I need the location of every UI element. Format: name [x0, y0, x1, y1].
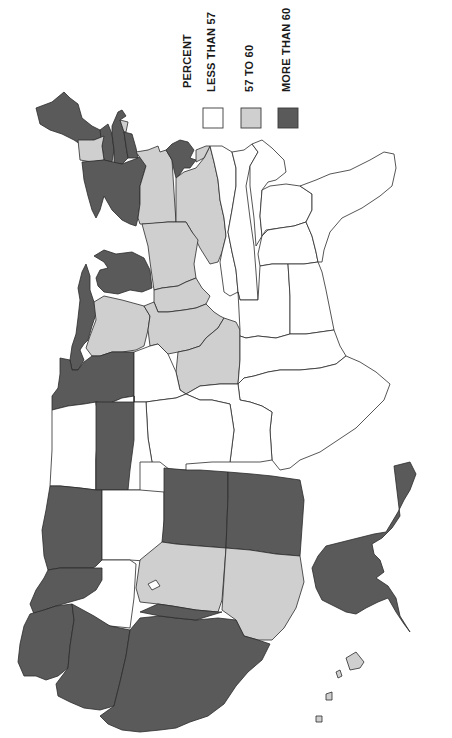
hawaii-oahu [326, 692, 332, 700]
legend: PERCENT LESS THAN 57 57 TO 60 MORE THAN … [181, 8, 298, 128]
region-west [18, 468, 304, 732]
state-hawaii [316, 652, 364, 722]
state-florida [300, 152, 396, 262]
state-oregon [18, 604, 74, 680]
legend-label-57-to-60: 57 TO 60 [243, 45, 255, 92]
region-new-england [36, 92, 138, 164]
state-maine [36, 92, 104, 144]
hawaii-maui [336, 670, 342, 678]
state-utah [136, 542, 226, 612]
state-south-dakota [50, 402, 98, 490]
state-alaska [312, 462, 416, 632]
state-montana [42, 486, 102, 570]
legend-swatch-less-than-57 [203, 108, 223, 128]
state-vermont [78, 136, 104, 162]
legend-label-less-than-57: LESS THAN 57 [205, 12, 217, 92]
state-alabama [288, 262, 334, 334]
state-oklahoma [146, 394, 234, 470]
legend-swatch-57-to-60 [241, 108, 261, 128]
legend-swatch-more-than-60 [278, 108, 298, 128]
legend-title: PERCENT [181, 34, 193, 88]
state-kansas [226, 472, 304, 556]
state-north-dakota [96, 396, 134, 490]
state-illinois [86, 296, 150, 356]
legend-label-more-than-60: MORE THAN 60 [280, 8, 292, 92]
state-colorado [162, 468, 228, 548]
hawaii-kauai [316, 716, 322, 722]
state-pennsylvania [136, 146, 176, 224]
hawaii-big-island [346, 652, 364, 670]
state-michigan [94, 250, 152, 294]
choropleth-map: PERCENT LESS THAN 57 57 TO 60 MORE THAN … [0, 0, 452, 738]
